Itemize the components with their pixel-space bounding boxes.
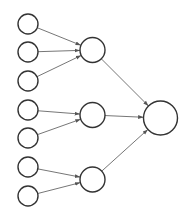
output-node-out [144, 101, 178, 135]
input-node-in3 [18, 71, 38, 91]
edge-arrow-in7-to-h3 [38, 183, 81, 194]
input-node-in7 [18, 186, 38, 206]
hidden-node-h2 [80, 103, 105, 128]
edge-arrow-h3-to-out [102, 129, 148, 171]
edge-arrow-in6-to-h3 [38, 169, 80, 177]
edge-arrow-in1-to-h1 [37, 28, 81, 46]
edge-arrow-h1-to-out [101, 59, 148, 106]
input-node-in5 [18, 128, 38, 148]
hidden-node-h3 [80, 167, 105, 192]
network-diagram [0, 0, 188, 217]
edge-arrow-h2-to-out [105, 116, 144, 118]
input-node-in2 [18, 42, 38, 62]
input-node-in6 [18, 157, 38, 177]
edge-arrow-in5-to-h2 [37, 119, 80, 134]
edge-arrow-in2-to-h1 [38, 50, 80, 51]
input-node-in4 [18, 100, 38, 120]
nodes-group [18, 14, 178, 206]
edge-arrow-in4-to-h2 [38, 111, 80, 114]
input-node-in1 [18, 14, 38, 34]
edge-arrow-in3-to-h1 [37, 55, 81, 76]
hidden-node-h1 [80, 38, 105, 63]
